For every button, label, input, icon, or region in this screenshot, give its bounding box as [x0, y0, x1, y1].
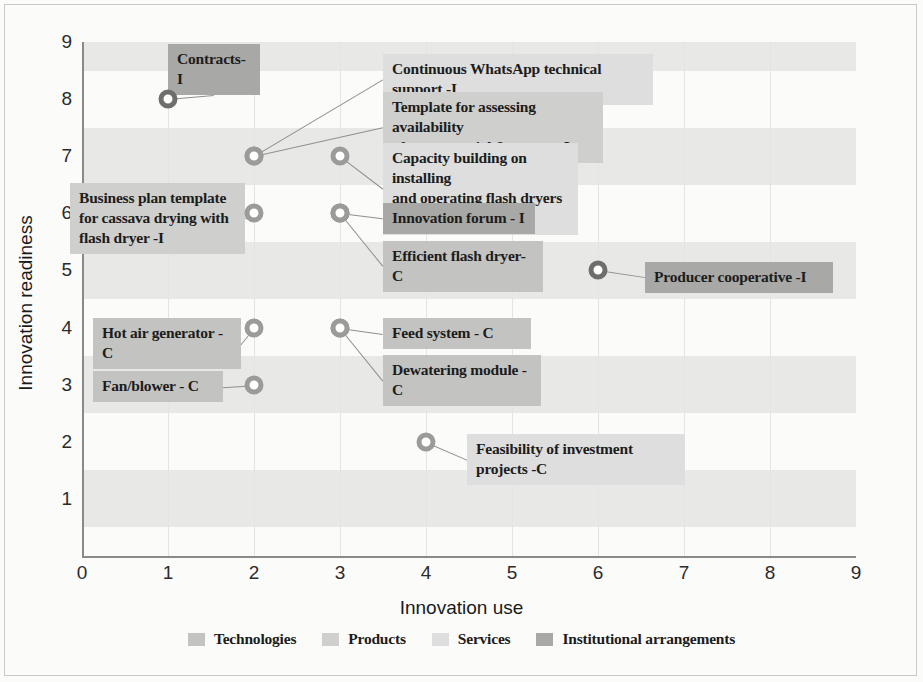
vertical-gridline	[340, 42, 341, 556]
legend-label: Products	[348, 630, 406, 648]
y-tick-label: 6	[44, 202, 72, 224]
data-point-label: Dewatering module - C	[383, 355, 541, 406]
legend-label: Technologies	[214, 630, 296, 648]
data-point-marker	[417, 432, 436, 451]
y-axis-title: Innovation readiness	[15, 173, 37, 433]
data-point-marker	[245, 375, 264, 394]
data-point-marker	[331, 147, 350, 166]
x-tick-label: 1	[163, 562, 174, 584]
chart-page: 987654321 0123456789 Innovation use Inno…	[0, 0, 923, 682]
y-tick-label: 9	[44, 31, 72, 53]
data-point-label: Feasibility of investment projects -C	[467, 434, 685, 485]
x-tick-label: 2	[249, 562, 260, 584]
data-point-label: Feed system - C	[383, 318, 531, 349]
legend-item: Technologies	[188, 630, 296, 648]
legend-swatch	[432, 633, 449, 646]
vertical-gridline	[254, 42, 255, 556]
data-point-marker	[331, 318, 350, 337]
x-axis-title: Innovation use	[0, 597, 923, 619]
legend-swatch	[536, 633, 553, 646]
legend-swatch	[188, 633, 205, 646]
y-tick-label: 7	[44, 145, 72, 167]
data-point-marker	[159, 90, 178, 109]
y-tick-label: 8	[44, 88, 72, 110]
x-tick-label: 0	[77, 562, 88, 584]
x-tick-label: 9	[851, 562, 862, 584]
legend-label: Institutional arrangements	[562, 630, 735, 648]
y-axis-ticks: 987654321	[42, 0, 72, 682]
legend-item: Services	[432, 630, 511, 648]
data-point-label: Efficient flash dryer- C	[383, 241, 543, 292]
data-point-marker	[331, 204, 350, 223]
legend-label: Services	[458, 630, 511, 648]
legend-swatch	[322, 633, 339, 646]
data-point-label: Producer cooperative -I	[645, 262, 833, 293]
x-tick-label: 4	[421, 562, 432, 584]
data-point-label: Hot air generator -C	[93, 318, 241, 369]
data-point-label: Contracts-I	[168, 44, 260, 95]
y-tick-label: 2	[44, 431, 72, 453]
data-point-marker	[245, 204, 264, 223]
data-point-marker	[245, 147, 264, 166]
y-tick-label: 5	[44, 259, 72, 281]
x-tick-label: 6	[593, 562, 604, 584]
x-tick-label: 8	[765, 562, 776, 584]
y-tick-label: 4	[44, 317, 72, 339]
data-point-label: Fan/blower - C	[93, 371, 223, 402]
chart-legend: TechnologiesProductsServicesInstitutiona…	[0, 630, 923, 648]
data-point-label: Business plan template for cassava dryin…	[70, 183, 245, 254]
legend-item: Products	[322, 630, 406, 648]
vertical-gridline	[770, 42, 771, 556]
x-tick-label: 7	[679, 562, 690, 584]
x-tick-label: 5	[507, 562, 518, 584]
x-axis-line	[82, 556, 856, 558]
y-tick-label: 1	[44, 488, 72, 510]
x-tick-label: 3	[335, 562, 346, 584]
data-point-marker	[589, 261, 608, 280]
y-axis-line	[82, 42, 84, 556]
legend-item: Institutional arrangements	[536, 630, 735, 648]
data-point-label: Innovation forum - I	[383, 203, 535, 234]
y-tick-label: 3	[44, 374, 72, 396]
vertical-gridline	[168, 42, 169, 556]
data-point-marker	[245, 318, 264, 337]
